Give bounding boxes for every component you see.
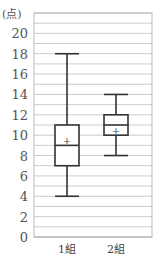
y-tick-label: 12 [11, 108, 28, 123]
y-tick-label: 14 [11, 87, 28, 102]
x-category-label: 2組 [107, 243, 125, 256]
y-tick-label: 16 [11, 67, 28, 82]
box-2: +2組 [104, 94, 128, 256]
mean-marker: + [112, 125, 120, 136]
y-tick-label: 6 [20, 169, 28, 184]
y-axis-unit: (点) [2, 8, 22, 21]
y-tick-label: 18 [11, 47, 28, 62]
y-tick-label: 8 [20, 149, 28, 164]
y-tick-label: 2 [20, 210, 28, 225]
y-tick-label: 0 [20, 230, 28, 245]
y-tick-label: 20 [11, 26, 28, 41]
y-tick-label: 10 [11, 128, 28, 143]
box-plot-chart: 02468101214161820(点)+1組+2組 [0, 0, 161, 264]
mean-marker: + [63, 135, 71, 146]
x-category-label: 1組 [58, 243, 76, 256]
y-tick-label: 4 [20, 189, 28, 204]
